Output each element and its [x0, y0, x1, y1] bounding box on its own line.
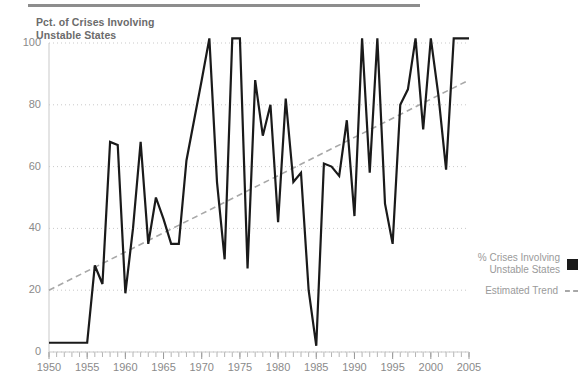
legend-item-trend[interactable]: Estimated Trend [448, 285, 578, 297]
x-axis-tick-label: 2005 [449, 361, 489, 373]
chart-legend: % Crises Involving Unstable States Estim… [448, 252, 578, 306]
y-axis-tick-label: 0 [11, 345, 41, 357]
legend-label-crises-line1: % Crises Involving [478, 252, 560, 264]
y-axis-tick-label: 60 [11, 160, 41, 172]
x-axis-tick-label: 1970 [182, 361, 222, 373]
x-axis-minor-ticks [49, 352, 469, 357]
x-axis-tick-label: 1990 [334, 361, 374, 373]
y-axis-tick-label: 40 [11, 221, 41, 233]
x-axis-tick-label: 1965 [144, 361, 184, 373]
x-axis-tick-label: 1985 [296, 361, 336, 373]
y-axis-tick-label: 100 [11, 36, 41, 48]
x-axis-tick-label: 1995 [373, 361, 413, 373]
legend-swatch-dashed-icon [565, 290, 578, 292]
crises-series-line [49, 38, 469, 345]
x-axis-tick-label: 1960 [105, 361, 145, 373]
legend-swatch-square-icon [567, 259, 578, 270]
legend-label-crises: % Crises Involving Unstable States [478, 252, 560, 276]
legend-item-crises[interactable]: % Crises Involving Unstable States [448, 252, 578, 276]
legend-label-crises-line2: Unstable States [478, 264, 560, 276]
legend-label-trend: Estimated Trend [485, 285, 558, 297]
chart-page: Pct. of Crises Involving Unstable States… [0, 0, 585, 383]
x-axis-major-ticks [49, 352, 469, 359]
y-axis-tick-label: 20 [11, 283, 41, 295]
gridlines [49, 43, 469, 352]
y-axis-tick-label: 80 [11, 98, 41, 110]
line-chart-plot [0, 0, 585, 383]
x-axis-tick-label: 1975 [220, 361, 260, 373]
x-axis-tick-label: 2000 [411, 361, 451, 373]
x-axis-tick-label: 1950 [29, 361, 69, 373]
x-axis-tick-label: 1955 [67, 361, 107, 373]
x-axis-tick-label: 1980 [258, 361, 298, 373]
